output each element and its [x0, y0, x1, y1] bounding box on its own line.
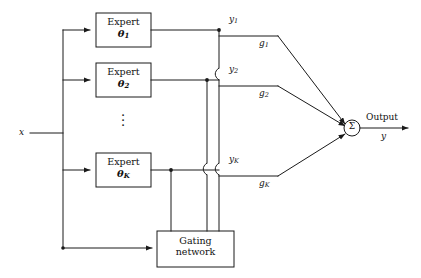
expert-box-1-label: Expert θ1 — [96, 17, 151, 40]
wire-hop-yk-level-mid — [203, 163, 207, 175]
yk-label: yK — [229, 154, 239, 165]
output-variable-label: y — [381, 131, 386, 141]
expert-3-param: θK — [96, 168, 151, 180]
expert-1-param: θ1 — [96, 28, 151, 40]
y1-label: y1 — [229, 14, 238, 25]
output-label: Output — [366, 112, 398, 122]
junction-dot-bus-bottom — [61, 246, 65, 250]
g2-label: g2 — [259, 88, 269, 99]
mixture-of-experts-diagram: Expert θ1 Expert θ2 Expert θK ··· Gating… — [0, 0, 421, 278]
expert-box-2-label: Expert θ2 — [96, 67, 151, 90]
gk-label: gK — [259, 178, 270, 189]
expert-2-title: Expert — [96, 67, 151, 78]
expert-2-param: θ2 — [96, 78, 151, 90]
sum-node-symbol: Σ — [344, 121, 360, 131]
g1-diagonal-to-sum — [278, 36, 345, 124]
wire-hop-y2-level — [215, 68, 219, 80]
input-label: x — [19, 127, 24, 137]
gating-network-label: Gating network — [157, 236, 234, 257]
expert-1-title: Expert — [96, 17, 151, 28]
y2-label: y2 — [229, 64, 238, 75]
expert-3-title: Expert — [96, 157, 151, 168]
g2-diagonal-to-sum — [278, 86, 345, 126]
wire-hop-yk-level-right — [215, 163, 219, 175]
expert-box-3-label: Expert θK — [96, 157, 151, 180]
g1-label: g1 — [259, 38, 269, 49]
gating-network-line-2: network — [157, 247, 234, 258]
experts-ellipsis: ··· — [108, 113, 138, 128]
gk-diagonal-to-sum — [278, 134, 345, 176]
